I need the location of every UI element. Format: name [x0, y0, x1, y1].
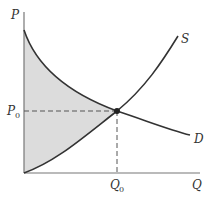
- demand-label: D: [193, 132, 204, 146]
- x-axis-label: Q: [192, 178, 202, 192]
- svg-text:0: 0: [119, 185, 124, 194]
- surplus-shaded-area: [24, 30, 117, 173]
- price-equilibrium-label: P 0: [6, 104, 20, 120]
- supply-label: S: [181, 32, 189, 46]
- y-axis-label: P: [10, 8, 20, 22]
- svg-text:0: 0: [15, 111, 20, 120]
- supply-demand-diagram: P Q S D P 0 Q 0: [0, 0, 216, 197]
- equilibrium-point: [114, 108, 120, 114]
- quantity-equilibrium-label: Q 0: [110, 178, 124, 194]
